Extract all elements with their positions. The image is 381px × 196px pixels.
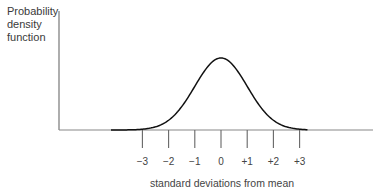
y-label-line-3: function <box>7 31 58 44</box>
y-label-line-2: density <box>7 18 58 31</box>
tick-label: +1 <box>241 156 252 167</box>
tick-label: −2 <box>163 156 174 167</box>
y-axis-label: Probability density function <box>7 5 58 44</box>
tick-label: 0 <box>218 156 224 167</box>
tick-label: −1 <box>189 156 200 167</box>
x-ticks <box>142 130 299 148</box>
tick-label: −3 <box>137 156 148 167</box>
normal-curve <box>111 58 308 130</box>
x-axis-label: standard deviations from mean <box>150 177 294 189</box>
tick-label: +2 <box>268 156 279 167</box>
y-label-line-1: Probability <box>7 5 58 18</box>
tick-label: +3 <box>294 156 305 167</box>
